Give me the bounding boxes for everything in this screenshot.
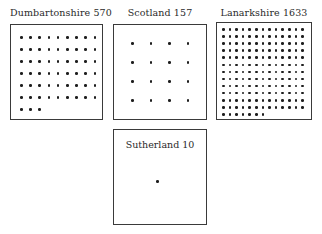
dot bbox=[57, 36, 60, 39]
dot bbox=[222, 106, 225, 109]
dot bbox=[255, 92, 258, 95]
dot bbox=[229, 28, 232, 31]
dot bbox=[295, 35, 298, 38]
dot bbox=[229, 92, 232, 95]
dot bbox=[288, 99, 291, 102]
panel-label-sutherland: Sutherland 10 bbox=[114, 139, 206, 150]
dot bbox=[242, 49, 245, 52]
dot bbox=[168, 42, 171, 45]
dot bbox=[255, 113, 258, 116]
dot bbox=[229, 106, 232, 109]
dot bbox=[301, 78, 304, 81]
dot bbox=[48, 72, 51, 75]
dot bbox=[229, 49, 232, 52]
dot bbox=[268, 99, 271, 102]
dot bbox=[20, 36, 23, 39]
dot bbox=[235, 28, 238, 31]
dot bbox=[235, 113, 238, 116]
dot bbox=[248, 113, 251, 116]
dot bbox=[301, 49, 304, 52]
dot bbox=[248, 64, 251, 67]
dot bbox=[75, 60, 78, 63]
dot bbox=[262, 85, 265, 88]
dot bbox=[262, 64, 265, 67]
dot bbox=[66, 36, 69, 39]
dot bbox=[288, 49, 291, 52]
dot bbox=[222, 85, 225, 88]
dot bbox=[281, 71, 284, 74]
dot bbox=[281, 92, 284, 95]
dot bbox=[235, 85, 238, 88]
dot bbox=[168, 99, 171, 102]
dot bbox=[268, 92, 271, 95]
dot bbox=[229, 64, 232, 67]
dot bbox=[268, 85, 271, 88]
dot bbox=[242, 78, 245, 81]
dot bbox=[229, 35, 232, 38]
panel-box-dumbartonshire bbox=[10, 24, 103, 120]
dot bbox=[295, 92, 298, 95]
dot bbox=[20, 48, 23, 51]
panel-box-lanarkshire bbox=[216, 22, 312, 120]
dot bbox=[229, 99, 232, 102]
dot bbox=[20, 96, 23, 99]
dot bbox=[94, 72, 97, 75]
dot bbox=[295, 99, 298, 102]
dot bbox=[131, 80, 134, 83]
dot bbox=[150, 80, 153, 83]
dot bbox=[268, 35, 271, 38]
dot bbox=[275, 56, 278, 59]
dot bbox=[288, 56, 291, 59]
dot bbox=[275, 71, 278, 74]
dot bbox=[84, 48, 87, 51]
dot bbox=[20, 60, 23, 63]
dot bbox=[222, 113, 225, 116]
dot bbox=[235, 106, 238, 109]
dot bbox=[29, 36, 32, 39]
dot bbox=[20, 108, 23, 111]
dot bbox=[29, 84, 32, 87]
dot bbox=[301, 106, 304, 109]
dot bbox=[57, 60, 60, 63]
dot bbox=[295, 106, 298, 109]
dot bbox=[262, 49, 265, 52]
dot bbox=[288, 92, 291, 95]
dot bbox=[229, 56, 232, 59]
dot bbox=[75, 96, 78, 99]
dot bbox=[168, 61, 171, 64]
dot bbox=[48, 60, 51, 63]
dot bbox=[222, 78, 225, 81]
dot bbox=[295, 85, 298, 88]
dot bbox=[268, 64, 271, 67]
dot bbox=[275, 64, 278, 67]
dot bbox=[235, 71, 238, 74]
dot bbox=[288, 78, 291, 81]
dot bbox=[242, 106, 245, 109]
dot bbox=[66, 48, 69, 51]
dot bbox=[288, 85, 291, 88]
dot bbox=[38, 60, 41, 63]
dot bbox=[262, 28, 265, 31]
dot bbox=[168, 80, 171, 83]
dot bbox=[38, 72, 41, 75]
dot bbox=[29, 60, 32, 63]
dot bbox=[295, 56, 298, 59]
dot bbox=[66, 72, 69, 75]
dot bbox=[38, 36, 41, 39]
panel-box-scotland bbox=[113, 24, 207, 120]
dot bbox=[222, 56, 225, 59]
dot bbox=[48, 48, 51, 51]
dot bbox=[262, 99, 265, 102]
dot bbox=[255, 64, 258, 67]
dot bbox=[275, 35, 278, 38]
dot bbox=[301, 42, 304, 45]
dot bbox=[150, 99, 153, 102]
dot bbox=[187, 99, 190, 102]
dot bbox=[268, 28, 271, 31]
dot bbox=[222, 71, 225, 74]
dot bbox=[131, 42, 134, 45]
dot bbox=[295, 49, 298, 52]
dot bbox=[242, 64, 245, 67]
dot bbox=[131, 61, 134, 64]
dot bbox=[150, 42, 153, 45]
